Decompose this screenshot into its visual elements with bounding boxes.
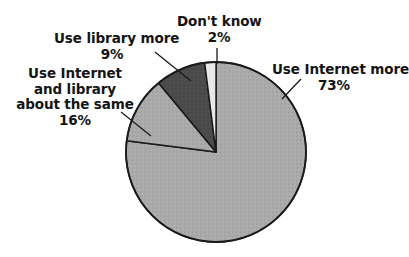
slice-label-use-internet-more-text: Use Internet more — [272, 61, 409, 77]
slice-label-use-internet-more-value: 73% — [272, 78, 396, 94]
slice-label-same-value: 16% — [14, 113, 136, 129]
slice-label-use-library-more-text: Use library more — [54, 30, 179, 46]
slice-label-use-internet-more: Use Internet more 73% — [272, 62, 396, 93]
slice-label-use-library-more-value: 9% — [54, 47, 170, 63]
slice-label-dont-know-value: 2% — [177, 30, 261, 46]
slice-label-use-internet-and-library-same: Use Internet and library about the same … — [14, 66, 136, 128]
slice-label-same-line-2: and library — [14, 82, 136, 98]
slice-label-use-library-more: Use library more 9% — [54, 31, 170, 62]
slice-label-same-line-3: about the same — [14, 97, 136, 113]
slice-label-same-line-1: Use Internet — [14, 66, 136, 82]
slice-label-dont-know: Don't know 2% — [177, 14, 261, 45]
slice-label-dont-know-text: Don't know — [177, 13, 262, 29]
